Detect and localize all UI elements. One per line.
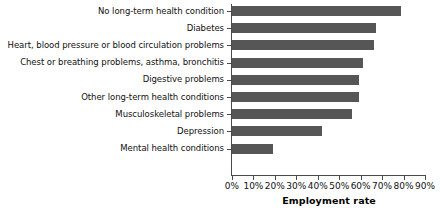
- bar: [232, 144, 273, 154]
- x-axis-tick: [275, 176, 276, 180]
- category-label: Other long-term health conditions: [0, 92, 228, 102]
- x-axis-tick-label: 90%: [410, 181, 440, 192]
- category-label: No long-term health condition: [0, 6, 228, 16]
- bar: [232, 58, 363, 68]
- y-axis-tick: [227, 63, 231, 64]
- x-axis-tick: [296, 176, 297, 180]
- x-axis-line: [232, 175, 426, 176]
- x-axis-tick: [318, 176, 319, 180]
- bar: [232, 126, 322, 136]
- category-label: Mental health conditions: [0, 143, 228, 153]
- category-label: Depression: [0, 126, 228, 136]
- category-label: Heart, blood pressure or blood circulati…: [0, 40, 228, 50]
- x-axis-tick: [253, 176, 254, 180]
- bar: [232, 75, 359, 85]
- bar: [232, 23, 376, 33]
- x-axis-tick: [361, 176, 362, 180]
- bar: [232, 92, 359, 102]
- x-axis-tick: [339, 176, 340, 180]
- bar: [232, 40, 374, 50]
- x-axis-title: Employment rate: [232, 195, 426, 206]
- y-axis-tick: [227, 45, 231, 46]
- bar: [232, 109, 352, 119]
- x-axis-tick: [232, 176, 233, 180]
- category-label: Musculoskeletal problems: [0, 109, 228, 119]
- y-axis-tick: [227, 80, 231, 81]
- category-label: Digestive problems: [0, 74, 228, 84]
- y-axis-tick: [227, 11, 231, 12]
- y-axis-tick: [227, 97, 231, 98]
- y-axis-tick: [227, 28, 231, 29]
- category-label: Chest or breathing problems, asthma, bro…: [0, 57, 228, 67]
- bar: [232, 6, 401, 16]
- x-axis-tick: [404, 176, 405, 180]
- category-axis-labels: No long-term health conditionDiabetesHea…: [0, 0, 228, 176]
- plot-area: No long-term health conditionDiabetesHea…: [0, 0, 431, 176]
- y-axis-line: [231, 4, 232, 176]
- y-axis-tick: [227, 114, 231, 115]
- x-axis-tick: [425, 176, 426, 180]
- y-axis-tick: [227, 131, 231, 132]
- x-axis-tick: [382, 176, 383, 180]
- category-label: Diabetes: [0, 23, 228, 33]
- bars-layer: [232, 0, 431, 176]
- y-axis-tick: [227, 149, 231, 150]
